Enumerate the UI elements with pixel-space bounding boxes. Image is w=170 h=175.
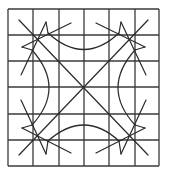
geometric-diagram [0,0,170,175]
